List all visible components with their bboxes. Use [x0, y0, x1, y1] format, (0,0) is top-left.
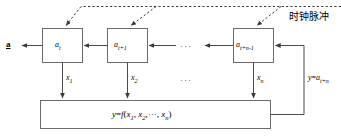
register-label-at: at: [55, 41, 61, 51]
function-sep1: ,: [134, 109, 136, 119]
tap-label-x1: x1: [66, 74, 73, 84]
clock-branch-at1: [131, 7, 156, 26]
clock-pulse-label: 时钟脉冲: [289, 12, 329, 22]
tap-ellipsis: ···: [180, 75, 192, 85]
feedback-path: [271, 46, 305, 115]
output-label: a: [6, 40, 11, 49]
tap-label-x1-sub: 1: [70, 78, 73, 84]
function-close-paren: ): [169, 109, 172, 119]
tap-label-xn: xn: [257, 74, 264, 84]
register-label-at1-sub: t+1: [118, 45, 127, 51]
register-box-at: [43, 29, 83, 63]
tap-label-x2-sub: 2: [135, 78, 138, 84]
function-expression: y=f(x1, x2,···, xn): [112, 110, 172, 121]
function-sep3: ,: [157, 109, 159, 119]
register-label-atn1: at+n-1: [236, 41, 254, 51]
register-chain-ellipsis: ···: [180, 41, 192, 51]
register-label-atn1-sub: t+n-1: [240, 45, 254, 51]
shift-register-diagram: a 时钟脉冲 at at+1 at+n-1 ··· x1 x2 xn ··· y…: [0, 0, 341, 137]
clock-branch-at: [66, 7, 81, 26]
register-label-at-sub: t: [59, 45, 61, 51]
tap-label-x2: x2: [131, 74, 138, 84]
feedback-rhs-sub: t+n: [320, 78, 329, 84]
feedback-label: y=at+n: [308, 74, 329, 84]
clock-branch-atn1: [257, 7, 281, 26]
function-inner-ellipsis: ···: [148, 109, 157, 119]
register-label-at1: at+1: [114, 41, 127, 51]
tap-label-xn-sub: n: [261, 78, 264, 84]
